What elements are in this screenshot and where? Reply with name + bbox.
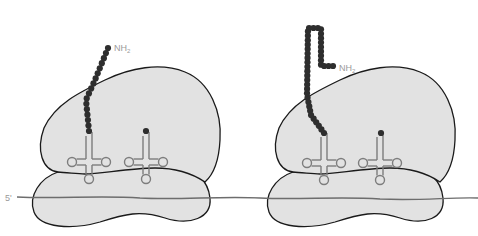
right-amino-acid-bead [330,63,336,69]
left-nh2-label: NH2 [114,43,131,54]
ribosome-diagram: 5' NH2 NH2 [0,0,478,236]
left-amino-acid-bead [86,128,92,134]
left-nh2-sub: 2 [127,48,131,54]
left-amino-acid-bead [83,101,89,107]
left-amino-acid-bead [84,106,90,112]
right-nh2-main: NH [339,63,352,73]
right-incoming-amino-acid [378,130,384,136]
right-ribosome [267,67,455,227]
left-large-subunit [40,67,220,182]
left-amino-acid-bead [85,117,91,123]
left-ribosome [32,67,220,227]
left-incoming-amino-acid [143,128,149,134]
left-amino-acid-bead [84,112,90,118]
left-amino-acid-bead [85,122,91,128]
right-small-subunit [267,166,443,226]
left-amino-acid-bead [105,45,111,51]
left-nh2-main: NH [114,43,127,53]
mrna-5prime-label: 5' [5,193,12,203]
right-nh2-label: NH2 [339,63,356,74]
